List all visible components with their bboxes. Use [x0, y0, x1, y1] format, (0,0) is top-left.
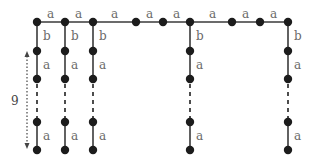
spine-label-3: a	[111, 7, 118, 21]
tooth-2: b a a	[65, 22, 79, 150]
edge-label-a: a	[43, 129, 50, 143]
node	[33, 75, 41, 83]
node	[61, 146, 69, 154]
node	[284, 146, 292, 154]
node	[132, 18, 140, 26]
edge-label-a: a	[294, 58, 301, 72]
spine-label-7: a	[242, 7, 249, 21]
edge-label-a: a	[71, 129, 78, 143]
spine-label-4: a	[146, 7, 153, 21]
node	[256, 18, 264, 26]
node	[33, 47, 41, 55]
node	[89, 118, 97, 126]
spine-label-5: a	[173, 7, 180, 21]
edge-label-a: a	[196, 58, 203, 72]
tooth-5: b a a	[288, 22, 302, 150]
spine-label-1: a	[47, 7, 54, 21]
node	[186, 118, 194, 126]
node	[186, 18, 194, 26]
arrow-down-icon	[25, 143, 30, 149]
node	[284, 75, 292, 83]
edge-label-b: b	[99, 29, 107, 43]
node	[61, 18, 69, 26]
node	[284, 118, 292, 126]
node	[89, 47, 97, 55]
node	[61, 47, 69, 55]
edge-label-b: b	[71, 29, 79, 43]
node	[228, 18, 236, 26]
spine-label-8: a	[270, 7, 277, 21]
tooth-3: b a a	[93, 22, 107, 150]
edge-label-a: a	[294, 129, 301, 143]
tooth-4: b a a	[190, 22, 204, 150]
node	[33, 146, 41, 154]
node	[33, 18, 41, 26]
node	[186, 146, 194, 154]
edge-label-a: a	[43, 58, 50, 72]
node	[61, 118, 69, 126]
length-label: 9	[11, 94, 19, 108]
node	[89, 18, 97, 26]
comb-graph-diagram: a a a a a a a a b a a b a a b a a b a	[0, 0, 317, 163]
node	[284, 47, 292, 55]
node	[186, 47, 194, 55]
node	[186, 75, 194, 83]
edge-label-b: b	[294, 29, 302, 43]
node	[284, 18, 292, 26]
node	[159, 18, 167, 26]
node	[33, 118, 41, 126]
edge-label-b: b	[196, 29, 204, 43]
edge-label-a: a	[196, 129, 203, 143]
edge-label-a: a	[99, 129, 106, 143]
arrow-up-icon	[25, 51, 30, 57]
edge-label-a: a	[99, 58, 106, 72]
node	[89, 75, 97, 83]
spine-label-2: a	[75, 7, 82, 21]
spine-label-6: a	[209, 7, 216, 21]
edge-label-a: a	[71, 58, 78, 72]
edge-label-b: b	[43, 29, 51, 43]
node	[61, 75, 69, 83]
length-indicator: 9	[11, 51, 30, 149]
tooth-1: b a a	[37, 22, 51, 150]
node	[89, 146, 97, 154]
